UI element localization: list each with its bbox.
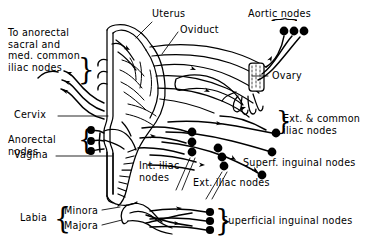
lymphatic-drainage-diagram: To anorectal sacral and med. common ilia… <box>0 0 380 249</box>
superficial-inguinal-node-dots <box>206 208 214 234</box>
ovary-outline <box>249 63 264 91</box>
ext-iliac-node-dots <box>188 128 229 171</box>
label-to-anorectal-nodes: To anorectal sacral and med. common ilia… <box>8 27 80 73</box>
leader-majora <box>102 220 122 225</box>
label-ext-iliac-nodes: Ext. iliac nodes <box>193 177 270 189</box>
label-uterus: Uterus <box>152 8 185 20</box>
brace-aortic-nodes: ⏞ <box>271 19 297 30</box>
vagina-outline <box>107 149 137 205</box>
label-int-iliac-nodes: Int. iliac nodes <box>139 160 179 183</box>
label-superficial-inguinal-nodes: Superficial inguinal nodes <box>222 215 352 227</box>
leader-minora <box>102 207 120 210</box>
label-superf-inguinal-nodes: Superf. inguinal nodes <box>243 157 356 169</box>
cervix-outline <box>104 122 136 150</box>
label-vagina: Vagina <box>14 149 48 161</box>
brace-anorectal-nodes: { <box>78 125 95 154</box>
leader-oviduct <box>162 32 178 54</box>
arrow-top-uterus <box>124 45 211 94</box>
label-labia: Labia <box>20 212 47 224</box>
label-cervix: Cervix <box>14 109 46 121</box>
brace-ext-common-iliac: } <box>276 109 291 134</box>
arrows-upper-left <box>61 70 72 94</box>
brace-to-anorectal: } <box>78 54 95 84</box>
brace-labia: { <box>54 202 71 232</box>
brace-superficial-inguinal: } <box>215 204 232 234</box>
label-ext-common-iliac-nodes: Ext. & common iliac nodes <box>283 113 360 136</box>
label-oviduct: Oviduct <box>180 24 219 36</box>
label-ovary: Ovary <box>272 70 302 82</box>
